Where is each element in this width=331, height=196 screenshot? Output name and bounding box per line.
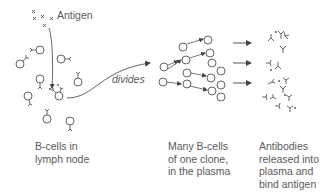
antigen-label: Antigen	[57, 9, 93, 22]
antigen-marks	[32, 10, 53, 27]
caption-b-cells-lymph-node: B-cells in lymph node	[35, 140, 89, 165]
caption-line: plasma and	[259, 165, 319, 178]
caption-line: Many B-cells	[168, 140, 230, 153]
caption-line: bind antigen	[259, 178, 319, 191]
divides-label: divides	[112, 73, 145, 86]
caption-line: Antibodies	[259, 140, 319, 153]
antibodies	[262, 31, 293, 112]
caption-antibodies: Antibodies released into plasma and bind…	[259, 140, 319, 190]
caption-line: in the plasma	[168, 165, 230, 178]
caption-line: B-cells in	[35, 140, 89, 153]
release-arrows	[233, 43, 251, 83]
caption-clone-plasma: Many B-cells of one clone, in the plasma	[168, 140, 230, 178]
antigen-binding-arrow	[49, 28, 53, 88]
lymph-node-b-cells	[16, 46, 82, 131]
caption-line: lymph node	[35, 153, 89, 166]
caption-line: of one clone,	[168, 153, 230, 166]
caption-line: released into	[259, 153, 319, 166]
